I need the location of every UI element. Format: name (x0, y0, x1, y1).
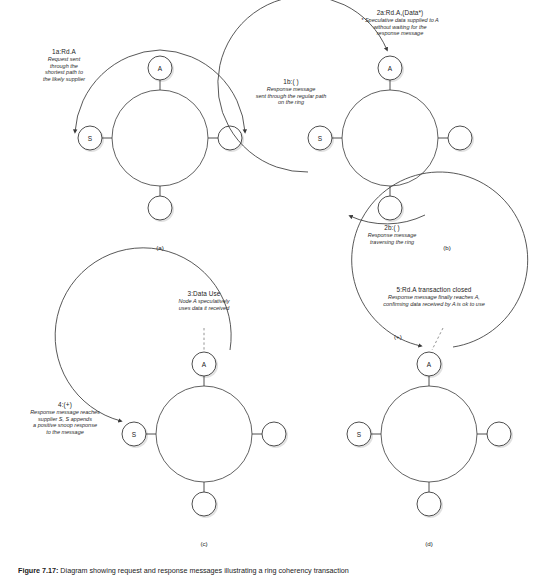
figure-caption-label: Figure 7.17: (18, 566, 58, 575)
annotation-3-heading: 3:Data Use (146, 290, 262, 298)
node-bottom (378, 196, 402, 220)
panel-a-graphic: A S (0, 0, 275, 290)
inner-ring (112, 90, 208, 186)
node-s-label: S (357, 431, 362, 438)
panel-d-graphic: A S (275, 280, 550, 570)
annotation-1a-body: Request sent through the shortest path t… (8, 56, 120, 82)
plus-marker-d: (+) (394, 333, 402, 340)
figure-caption-text: Diagram showing request and response mes… (60, 566, 348, 575)
subcaption-b: (b) (427, 244, 467, 251)
ring-coherency-figure: A S 1a:Rd.A Request sent through the sho… (0, 0, 550, 580)
annotation-3-body: Node A speculatively uses data it receiv… (146, 298, 262, 311)
panel-b-graphic: A S (275, 0, 550, 290)
node-a-label: A (158, 65, 163, 72)
subcaption-d: (d) (409, 540, 449, 547)
node-bottom (148, 196, 172, 220)
annotation-1a-heading: 1a:Rd.A (8, 48, 120, 56)
annotation-2a-heading: 2a:Rd.A,(Data*) (327, 9, 473, 17)
node-a-label: A (427, 361, 432, 368)
annotation-5-body: Response message finally reaches A, conf… (354, 294, 514, 307)
annotation-5: 5:Rd.A transaction closed Response messa… (354, 286, 514, 307)
node-spokes (102, 80, 218, 196)
node-right (487, 422, 511, 446)
node-s-label: S (132, 431, 137, 438)
inner-ring (156, 386, 252, 482)
node-spokes (146, 376, 262, 492)
annotation-4: 4:(+) Response message reaches supplier … (6, 401, 124, 435)
inner-ring (342, 90, 438, 186)
subcaption-c: (c) (184, 540, 224, 547)
node-bottom (192, 492, 216, 516)
annotation-3: 3:Data Use Node A speculatively uses dat… (146, 290, 262, 311)
annotation-2b-heading: 2b:( ) (340, 224, 444, 232)
annotation-5-heading: 5:Rd.A transaction closed (354, 286, 514, 294)
annotation-2a: 2a:Rd.A,(Data*) * Speculative data suppl… (327, 9, 473, 37)
node-s-label: S (318, 135, 323, 142)
annotation-4-heading: 4:(+) (6, 401, 124, 409)
node-a-label: A (202, 361, 207, 368)
annotation-4-body: Response message reaches supplier S, S a… (6, 409, 124, 435)
node-s-label: S (88, 135, 93, 142)
node-spokes (371, 376, 487, 492)
node-bottom (417, 492, 441, 516)
node-a-label: A (388, 65, 393, 72)
annotation-2a-body: * Speculative data supplied to A without… (327, 17, 473, 36)
node-right (448, 126, 472, 150)
annotation-1a: 1a:Rd.A Request sent through the shortes… (8, 48, 120, 82)
inner-ring (381, 386, 477, 482)
node-spokes (332, 80, 448, 196)
figure-caption: Figure 7.17: Diagram showing request and… (18, 566, 538, 580)
leader-transaction-closed (432, 328, 443, 350)
